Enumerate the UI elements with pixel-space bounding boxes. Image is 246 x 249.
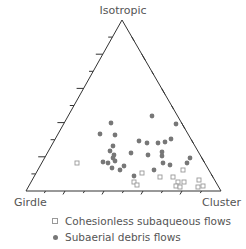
legend-label: Subaerial debris flows <box>65 231 181 243</box>
filled-circle-icon <box>50 235 60 240</box>
axis-ticks <box>31 37 213 194</box>
ternary-plot <box>0 0 246 249</box>
open-square-icon <box>50 218 60 224</box>
legend: Cohesionless subaqueous flows Subaerial … <box>50 213 231 245</box>
cohesionless-points <box>75 161 205 189</box>
legend-item-cohesionless: Cohesionless subaqueous flows <box>50 213 231 229</box>
debris-flow-points <box>98 114 193 179</box>
legend-item-subaerial: Subaerial debris flows <box>50 229 231 245</box>
legend-label: Cohesionless subaqueous flows <box>65 215 231 227</box>
